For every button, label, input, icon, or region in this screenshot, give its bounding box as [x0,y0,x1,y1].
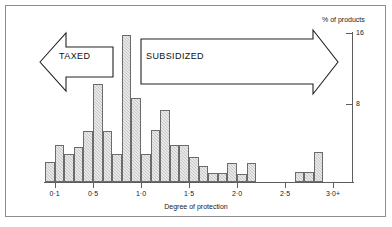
histogram-bar [103,131,113,182]
histogram-bar [304,172,314,182]
x-axis-title: Degree of protection [164,203,227,211]
histogram-bar [55,145,65,182]
histogram-bar [74,147,84,182]
histogram-bar [295,172,305,182]
histogram-bar [170,145,180,182]
histogram-bar [247,163,257,182]
x-tick [285,182,286,188]
y-tick-label-8: 8 [356,100,360,108]
x-tick [141,182,142,188]
y-axis-line [352,32,353,183]
histogram-bar [179,145,189,182]
x-tick [55,182,56,188]
histogram-bar [141,154,151,182]
x-tick-label: 3·0+ [326,190,340,198]
x-axis-line [44,182,354,183]
histogram-bar [131,98,141,182]
histogram-bar [189,157,199,182]
x-tick [237,182,238,188]
x-tick [189,182,190,188]
histogram-bar [199,166,209,182]
y-tick-16 [346,33,353,34]
y-axis-title: % of products [322,16,365,24]
x-tick [93,182,94,188]
histogram-bar [83,131,93,182]
histogram-bar [93,84,103,182]
histogram-bar [314,152,324,182]
x-tick-label: 0·1 [50,190,60,198]
histogram-bar [64,154,74,182]
x-tick-label: 2·5 [280,190,290,198]
histogram-bar [160,110,170,182]
histogram-bar [122,35,132,182]
histogram-bar [208,173,218,182]
figure-root: 16 8 % of products 0·10·51·01·52·02·53·0… [0,0,392,227]
x-tick-label: 1·0 [136,190,146,198]
histogram-bar [218,173,228,182]
histogram-bar [237,174,247,182]
plot-area: 16 8 % of products 0·10·51·01·52·02·53·0… [0,0,392,227]
histogram-bar [151,130,161,182]
x-tick-label: 2·0 [232,190,242,198]
histogram-bar [45,162,55,182]
x-tick [333,182,334,188]
histogram-bar [227,163,237,182]
y-tick-8 [346,104,353,105]
y-tick-label-16: 16 [356,29,364,37]
x-tick-label: 0·5 [88,190,98,198]
x-tick-label: 1·5 [184,190,194,198]
histogram-bar [112,154,122,182]
